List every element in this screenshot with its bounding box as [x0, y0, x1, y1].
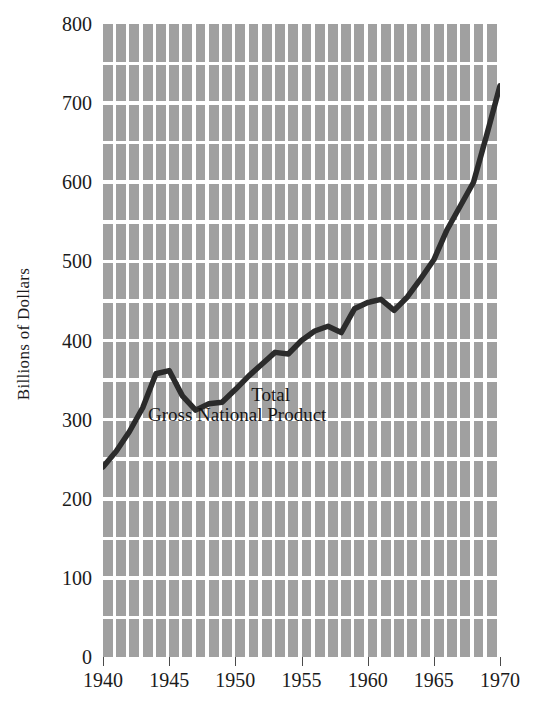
- x-axis-tick-1960: 1960: [348, 669, 388, 691]
- plot-area: [103, 24, 500, 657]
- y-axis-tick-300: 300: [34, 410, 92, 430]
- y-axis-tick-0: 0: [34, 647, 92, 667]
- x-axis-tickmark: [302, 657, 303, 666]
- gnp-series-line: [103, 24, 500, 657]
- y-axis-tick-100: 100: [34, 568, 92, 588]
- x-axis-tick-1950: 1950: [215, 669, 255, 691]
- y-axis-tick-400: 400: [34, 331, 92, 351]
- x-axis-tickmark: [235, 657, 236, 666]
- y-axis-tick-800: 800: [34, 14, 92, 34]
- x-axis-tickmark: [103, 657, 104, 666]
- x-axis-tick-1955: 1955: [282, 669, 322, 691]
- x-axis-tick-1965: 1965: [414, 669, 454, 691]
- x-axis-tickmark: [368, 657, 369, 666]
- x-axis-tick-1940: 1940: [83, 669, 123, 691]
- y-axis-tick-200: 200: [34, 489, 92, 509]
- y-axis-tick-600: 600: [34, 172, 92, 192]
- gnp-line-chart: Billions of Dollars 01002003004005006007…: [0, 0, 534, 710]
- x-axis-tickmark: [500, 657, 501, 666]
- y-axis-tick-500: 500: [34, 251, 92, 271]
- x-axis-tickmark: [434, 657, 435, 666]
- y-axis-tick-700: 700: [34, 93, 92, 113]
- x-axis-tick-1945: 1945: [149, 669, 189, 691]
- x-axis-tickmark: [169, 657, 170, 666]
- x-axis: 1940194519501955196019651970: [103, 657, 500, 710]
- x-axis-tick-1970: 1970: [480, 669, 520, 691]
- y-axis-tick-labels: 0100200300400500600700800: [18, 0, 92, 710]
